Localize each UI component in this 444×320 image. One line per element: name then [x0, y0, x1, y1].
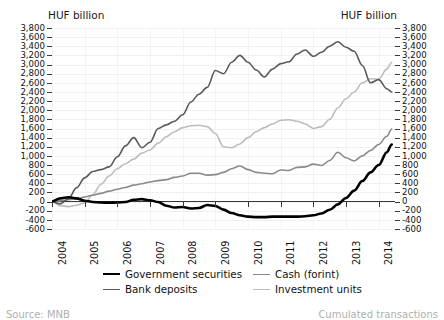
chart-legend: Government securities Bank deposits Cash… — [0, 268, 444, 302]
y-axis-tick-label-left: -600 — [25, 225, 45, 234]
left-axis-unit-label: HUF billion — [48, 9, 104, 21]
x-axis-tick-label: 2006 — [122, 241, 133, 265]
y-tick-right — [395, 211, 400, 212]
y-tick-left — [47, 165, 52, 166]
x-axis-tick-label: 2011 — [285, 241, 296, 265]
y-tick-left — [47, 101, 52, 102]
gridline-h — [52, 229, 395, 230]
y-tick-right — [395, 165, 400, 166]
x-tick — [281, 202, 282, 207]
y-tick-right — [395, 229, 400, 230]
y-axis-tick-label-right: 1,200 — [402, 142, 427, 151]
y-axis-tick-label-left: -200 — [25, 206, 45, 215]
y-axis-tick-label-right: -200 — [402, 206, 422, 215]
y-axis-tick-label-left: 2,800 — [20, 69, 45, 78]
x-axis-tick-label: 2013 — [351, 241, 362, 265]
x-axis-tick-label: 2005 — [89, 241, 100, 265]
y-tick-right — [395, 83, 400, 84]
x-axis-tick-label: 2008 — [187, 241, 198, 265]
y-tick-right — [395, 138, 400, 139]
right-axis-unit-label: HUF billion — [341, 9, 397, 21]
series-line-investment-units — [52, 62, 392, 206]
legend-item-cash-forint[interactable]: Cash (forint) — [253, 268, 339, 280]
y-axis-tick-label-right: 2,400 — [402, 88, 427, 97]
y-axis-tick-label-left: -400 — [25, 216, 45, 225]
y-tick-right — [395, 156, 400, 157]
x-axis-tick-label: 2009 — [220, 241, 231, 265]
legend-item-bank-deposits[interactable]: Bank deposits — [103, 283, 197, 295]
y-axis-tick-label-left: 1,200 — [20, 142, 45, 151]
footer-note-text: Cumulated transactions — [318, 309, 438, 320]
y-tick-right — [395, 101, 400, 102]
y-tick-right — [395, 174, 400, 175]
x-axis-tick-label: 2012 — [318, 241, 329, 265]
y-tick-right — [395, 129, 400, 130]
x-tick — [183, 202, 184, 207]
y-tick-left — [47, 55, 52, 56]
y-tick-left — [47, 37, 52, 38]
x-tick — [346, 202, 347, 207]
y-tick-left — [47, 65, 52, 66]
legend-swatch-investment-units — [253, 289, 270, 290]
y-tick-right — [395, 202, 400, 203]
y-axis-tick-label-left: 2,400 — [20, 88, 45, 97]
y-tick-right — [395, 192, 400, 193]
y-axis-tick-label-right: 2,600 — [402, 79, 427, 88]
y-tick-right — [395, 74, 400, 75]
x-axis-tick-label: 2010 — [253, 241, 264, 265]
y-tick-right — [395, 92, 400, 93]
y-tick-left — [47, 119, 52, 120]
y-axis-tick-label-left: 3,800 — [20, 24, 45, 33]
x-tick — [215, 202, 216, 207]
y-axis-tick-label-right: -400 — [402, 216, 422, 225]
y-tick-right — [395, 147, 400, 148]
y-tick-right — [395, 110, 400, 111]
x-tick — [117, 202, 118, 207]
y-tick-left — [47, 46, 52, 47]
x-axis-tick-label: 2007 — [155, 241, 166, 265]
x-tick — [248, 202, 249, 207]
x-axis-tick-label: 2004 — [57, 241, 68, 265]
y-tick-right — [395, 183, 400, 184]
legend-swatch-bank-deposits — [103, 289, 120, 290]
y-tick-right — [395, 55, 400, 56]
x-tick — [85, 202, 86, 207]
y-tick-left — [47, 211, 52, 212]
y-tick-left — [47, 147, 52, 148]
y-tick-right — [395, 46, 400, 47]
y-axis-tick-label-right: 1,000 — [402, 152, 427, 161]
y-axis-tick-label-left: 2,600 — [20, 79, 45, 88]
y-tick-left — [47, 92, 52, 93]
legend-swatch-cash-forint — [253, 274, 270, 275]
legend-label-government-securities: Government securities — [125, 268, 242, 280]
y-axis-tick-label-right: -600 — [402, 225, 422, 234]
y-axis-tick-label-left: 1,000 — [20, 152, 45, 161]
footer-source-text: Source: MNB — [6, 309, 70, 320]
y-tick-right — [395, 119, 400, 120]
plot-area — [52, 28, 395, 229]
y-tick-left — [47, 220, 52, 221]
y-tick-left — [47, 28, 52, 29]
y-tick-left — [47, 138, 52, 139]
y-tick-left — [47, 183, 52, 184]
legend-item-investment-units[interactable]: Investment units — [253, 283, 362, 295]
legend-label-bank-deposits: Bank deposits — [125, 283, 197, 295]
y-tick-right — [395, 37, 400, 38]
x-tick — [150, 202, 151, 207]
y-tick-left — [47, 229, 52, 230]
legend-label-cash-forint: Cash (forint) — [275, 268, 339, 280]
series-line-government-securities — [52, 144, 392, 217]
x-axis-tick-label: 2014 — [383, 241, 394, 265]
series-lines — [52, 28, 395, 229]
x-tick — [379, 202, 380, 207]
legend-label-investment-units: Investment units — [275, 283, 362, 295]
legend-swatch-government-securities — [103, 273, 120, 275]
series-line-bank-deposits — [52, 42, 392, 204]
y-tick-left — [47, 110, 52, 111]
legend-item-government-securities[interactable]: Government securities — [103, 268, 242, 280]
y-tick-left — [47, 129, 52, 130]
y-axis-tick-label-right: 2,800 — [402, 69, 427, 78]
y-tick-left — [47, 174, 52, 175]
y-tick-left — [47, 192, 52, 193]
